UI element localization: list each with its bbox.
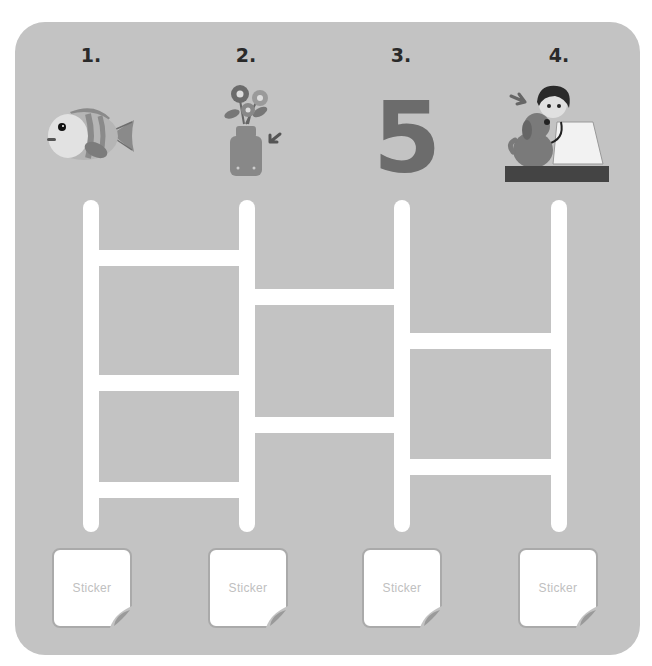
flower-vase-icon [218,80,290,180]
ladder-rung [250,417,400,433]
sticker-label: Sticker [54,581,130,595]
svg-text:5: 5 [373,88,441,180]
vet-with-dog-icon [503,82,615,186]
sticker-slot-1[interactable]: Sticker [52,548,132,628]
page-curl-icon [110,606,132,628]
sticker-label: Sticker [210,581,286,595]
sticker-slot-4[interactable]: Sticker [518,548,598,628]
page-curl-icon [420,606,442,628]
number-five-icon: 5 [370,88,444,180]
sticker-slot-3[interactable]: Sticker [362,548,442,628]
column-number-3: 3. [381,44,421,66]
sticker-label: Sticker [520,581,596,595]
sticker-label: Sticker [364,581,440,595]
column-number-4: 4. [539,44,579,66]
ladder-rung [405,333,557,349]
fish-icon [42,100,138,170]
sticker-slot-2[interactable]: Sticker [208,548,288,628]
ladder-rung [95,375,245,391]
ladder-rung [95,482,245,498]
ladder-rail-4 [551,200,567,532]
ladder-rung [405,459,557,475]
ladder-rung [95,250,245,266]
page-curl-icon [576,606,598,628]
ladder-rung [250,289,400,305]
column-number-1: 1. [71,44,111,66]
column-number-2: 2. [226,44,266,66]
ladder-rail-3 [394,200,410,532]
page-curl-icon [266,606,288,628]
